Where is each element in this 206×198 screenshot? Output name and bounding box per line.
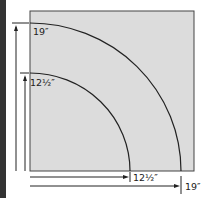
square-background [30, 11, 194, 171]
quarter-circle-diagram [0, 0, 206, 198]
inner-vertical-label: 12½″ [30, 78, 55, 88]
inner-horizontal-label: 12½″ [133, 173, 158, 183]
arrow-up-icon [23, 75, 27, 81]
outer-vertical-label: 19″ [33, 27, 49, 37]
arrow-right-icon [174, 184, 180, 188]
outer-horizontal-label: 19″ [185, 182, 201, 192]
arrow-right-icon [123, 175, 129, 179]
arrow-up-icon [14, 25, 18, 31]
